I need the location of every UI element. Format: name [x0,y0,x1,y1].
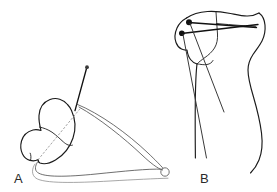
figure-canvas: A [0,0,277,192]
pin-two-head [179,31,185,37]
pin-one-head [186,19,192,25]
panel-a-label: A [14,171,23,186]
panel-b-label: B [200,171,209,186]
figure-root: A [0,0,277,192]
guide-pin-head [85,65,89,69]
